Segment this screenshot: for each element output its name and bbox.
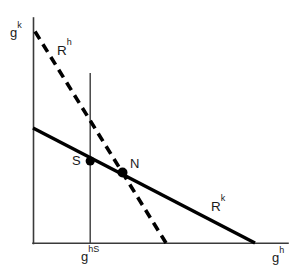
reaction-function-h-curve: [35, 32, 166, 244]
nash-equilibrium-point: [118, 168, 128, 178]
diagram-canvas: [0, 0, 302, 274]
x-axis-tick-label-ghs: ghS: [81, 250, 99, 263]
economic-reaction-function-diagram: gk gh ghS Rh Rk S N: [0, 0, 302, 274]
reaction-k-label-superscript: k: [221, 193, 226, 203]
reaction-h-label-base: R: [57, 43, 67, 58]
reaction-k-label-base: R: [211, 199, 221, 214]
reaction-function-k-curve: [33, 128, 255, 243]
y-axis-label-superscript: k: [17, 20, 22, 30]
reaction-function-k-label: Rk: [211, 200, 225, 214]
stackelberg-equilibrium-point: [86, 156, 95, 165]
x-tick-label-superscript: hS: [88, 244, 99, 254]
stackelberg-point-label: S: [72, 154, 81, 167]
y-axis-label: gk: [10, 26, 22, 39]
nash-point-label: N: [130, 157, 139, 170]
reaction-h-label-superscript: h: [67, 37, 72, 47]
reaction-function-h-label: Rh: [57, 44, 72, 58]
x-axis-label: gh: [272, 251, 284, 264]
x-axis-label-superscript: h: [279, 245, 284, 255]
